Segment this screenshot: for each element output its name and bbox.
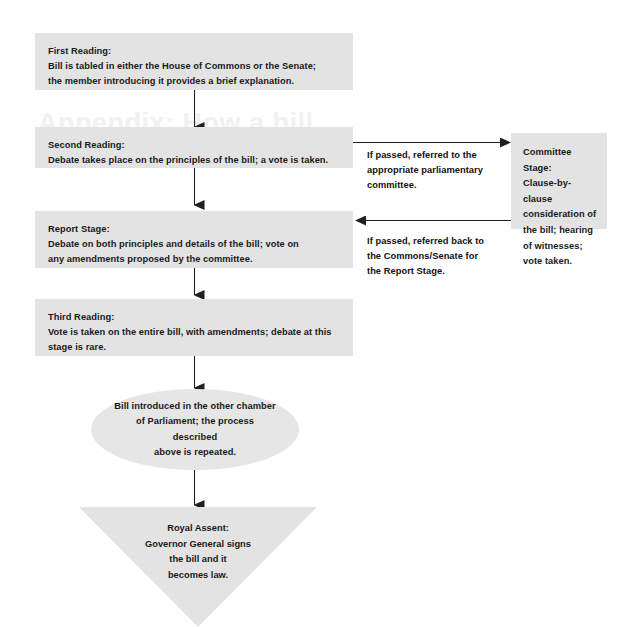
node-committee-stage-line-4: the bill; hearing (523, 223, 597, 239)
node-other-chamber-line-3: above is repeated. (113, 445, 277, 460)
node-royal-assent-line-2: Governor General signs (79, 537, 317, 553)
node-committee-stage-line-5: of witnesses; (523, 239, 597, 255)
node-third-reading-line-3: stage is rare. (48, 340, 339, 355)
royal-assent-text: Royal Assent: Governor General signs the… (79, 521, 317, 583)
node-report-stage-line-1: Report Stage: (48, 222, 339, 237)
edge-label-back-to-report: If passed, referred back to the Commons/… (367, 234, 507, 279)
edge-label-to-committee: If passed, referred to the appropriate p… (367, 148, 507, 193)
node-first-reading-line-1: First Reading: (48, 44, 339, 59)
node-first-reading-line-3: the member introducing it provides a bri… (48, 74, 339, 89)
node-royal-assent-line-3: the bill and it (79, 552, 317, 568)
node-committee-stage-line-2: Clause-by-clause (523, 176, 597, 207)
edge-label-to-committee-line-1: If passed, referred to the (367, 148, 507, 163)
edge-label-to-committee-line-3: committee. (367, 178, 507, 193)
node-second-reading: Second Reading: Debate takes place on th… (35, 127, 353, 168)
edge-label-back-to-report-line-3: the Report Stage. (367, 264, 507, 279)
node-royal-assent-line-1: Royal Assent: (79, 521, 317, 537)
edge-label-back-to-report-line-1: If passed, referred back to (367, 234, 507, 249)
node-second-reading-line-1: Second Reading: (48, 138, 339, 153)
edge-label-to-committee-line-2: appropriate parliamentary (367, 163, 507, 178)
node-committee-stage-line-6: vote taken. (523, 254, 597, 270)
node-committee-stage-line-3: consideration of (523, 207, 597, 223)
node-third-reading-line-1: Third Reading: (48, 310, 339, 325)
node-first-reading: First Reading: Bill is tabled in either … (35, 33, 353, 90)
node-committee-stage-line-1: Committee Stage: (523, 145, 597, 176)
node-other-chamber-line-2: of Parliament; the process described (113, 414, 277, 444)
node-committee-stage: Committee Stage: Clause-by-clause consid… (511, 133, 607, 229)
node-second-reading-line-2: Debate takes place on the principles of … (48, 153, 339, 168)
node-royal-assent-line-4: becomes law. (79, 568, 317, 584)
edge-label-back-to-report-line-2: the Commons/Senate for (367, 249, 507, 264)
node-report-stage: Report Stage: Debate on both principles … (35, 211, 353, 268)
node-royal-assent: Royal Assent: Governor General signs the… (79, 507, 317, 627)
node-first-reading-line-2: Bill is tabled in either the House of Co… (48, 59, 339, 74)
node-report-stage-line-2: Debate on both principles and details of… (48, 237, 339, 252)
node-third-reading: Third Reading: Vote is taken on the enti… (35, 299, 353, 356)
node-other-chamber: Bill introduced in the other chamber of … (91, 389, 299, 470)
node-report-stage-line-3: any amendments proposed by the committee… (48, 252, 339, 267)
node-third-reading-line-2: Vote is taken on the entire bill, with a… (48, 325, 339, 340)
node-other-chamber-line-1: Bill introduced in the other chamber (113, 399, 277, 414)
